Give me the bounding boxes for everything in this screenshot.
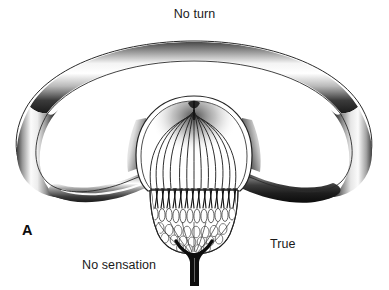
label-no-sensation: No sensation bbox=[82, 259, 156, 272]
canal-left-side bbox=[17, 107, 58, 197]
figure-root: No turn True No sensation A bbox=[0, 0, 389, 290]
panel-label: A bbox=[22, 222, 33, 238]
canal-right-side bbox=[331, 107, 372, 197]
ampulla bbox=[127, 96, 260, 191]
semicircular-canal-illustration bbox=[0, 0, 389, 290]
label-no-turn: No turn bbox=[0, 8, 389, 21]
label-true: True bbox=[270, 238, 296, 251]
crista-ampullaris bbox=[150, 188, 238, 254]
